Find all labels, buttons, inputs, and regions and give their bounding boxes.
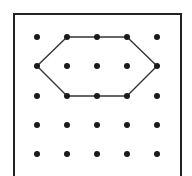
grid-dot xyxy=(94,122,100,128)
grid-dot xyxy=(124,93,130,99)
grid-dot xyxy=(94,63,100,69)
geoboard-diagram xyxy=(0,0,192,176)
grid-dot xyxy=(64,93,70,99)
grid-dot xyxy=(34,63,40,69)
grid-dot xyxy=(64,122,70,128)
grid-dot xyxy=(34,151,40,157)
grid-dot xyxy=(34,93,40,99)
grid-dot xyxy=(94,34,100,40)
grid-dot xyxy=(124,34,130,40)
grid-dot xyxy=(94,151,100,157)
grid-dot xyxy=(124,63,130,69)
grid-dot xyxy=(34,34,40,40)
grid-dot xyxy=(64,63,70,69)
grid-dot xyxy=(154,93,160,99)
grid-dot xyxy=(124,151,130,157)
grid-dot xyxy=(124,122,130,128)
grid-dot xyxy=(34,122,40,128)
grid-dot xyxy=(154,34,160,40)
dot-grid xyxy=(34,34,160,157)
grid-dot xyxy=(64,34,70,40)
grid-dot xyxy=(94,93,100,99)
grid-dot xyxy=(154,122,160,128)
grid-dot xyxy=(154,151,160,157)
grid-dot xyxy=(64,151,70,157)
grid-dot xyxy=(154,63,160,69)
